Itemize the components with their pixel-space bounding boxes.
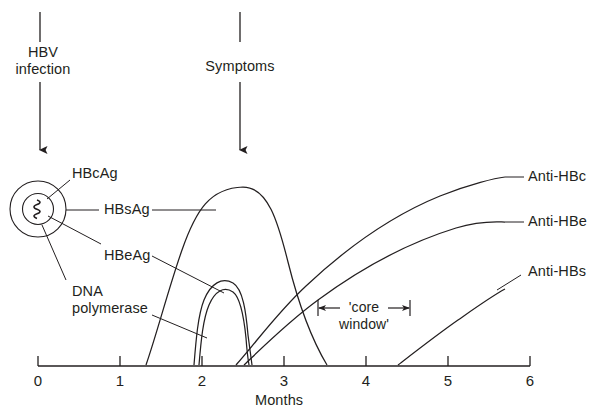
hbv-serology-diagram: HBV infection Symptoms HBcAg HBsAg HBeAg… <box>0 0 594 416</box>
x-tick-1: 1 <box>107 372 133 389</box>
leader-dnapol-left <box>42 225 66 280</box>
x-tick-5: 5 <box>435 372 461 389</box>
antibody-label-anti-hbs: Anti-HBs <box>528 263 586 280</box>
core-window-line2: window' <box>326 316 402 333</box>
event-label-hbv-line1: HBV <box>8 44 78 61</box>
x-tick-3: 3 <box>271 372 297 389</box>
dna-genome-squiggle <box>34 200 40 218</box>
x-axis-title: Months <box>255 392 303 409</box>
event-label-symptoms-line1: Symptoms <box>190 58 290 75</box>
antigen-label-hbcag: HBcAg <box>72 165 118 182</box>
antigen-label-hbeag: HBeAg <box>104 247 150 264</box>
event-label-symptoms: Symptoms <box>190 58 290 75</box>
curve-hbeag <box>194 281 252 365</box>
dna-polymerase-line2: polymerase <box>72 300 148 317</box>
event-label-hbv-line2: infection <box>8 61 78 78</box>
diagram-canvas <box>0 0 594 416</box>
antigen-label-hbsag: HBsAg <box>104 201 150 218</box>
x-tick-4: 4 <box>353 372 379 389</box>
virion-schematic <box>10 181 66 237</box>
leader-hbeag-right <box>152 256 224 293</box>
dna-polymerase-line1: DNA <box>72 283 148 300</box>
curve-hbsag <box>146 187 327 365</box>
x-tick-2: 2 <box>189 372 215 389</box>
curve-dna-polymerase <box>199 290 249 365</box>
leader-hbcag <box>47 180 70 199</box>
curve-anti-hbs <box>398 289 505 365</box>
x-tick-0: 0 <box>25 372 51 389</box>
curve-anti-hbc <box>236 177 505 365</box>
antibody-label-anti-hbe: Anti-HBe <box>528 213 587 230</box>
antigen-label-dna-polymerase: DNA polymerase <box>72 283 148 317</box>
antibody-label-anti-hbc: Anti-HBc <box>528 168 586 185</box>
x-axis <box>38 356 530 366</box>
leader-anti-hbs <box>497 275 521 290</box>
event-label-hbv-infection: HBV infection <box>8 44 78 78</box>
core-window-label: 'core window' <box>326 299 402 332</box>
x-tick-6: 6 <box>517 372 543 389</box>
core-window-line1: 'core <box>326 299 402 316</box>
